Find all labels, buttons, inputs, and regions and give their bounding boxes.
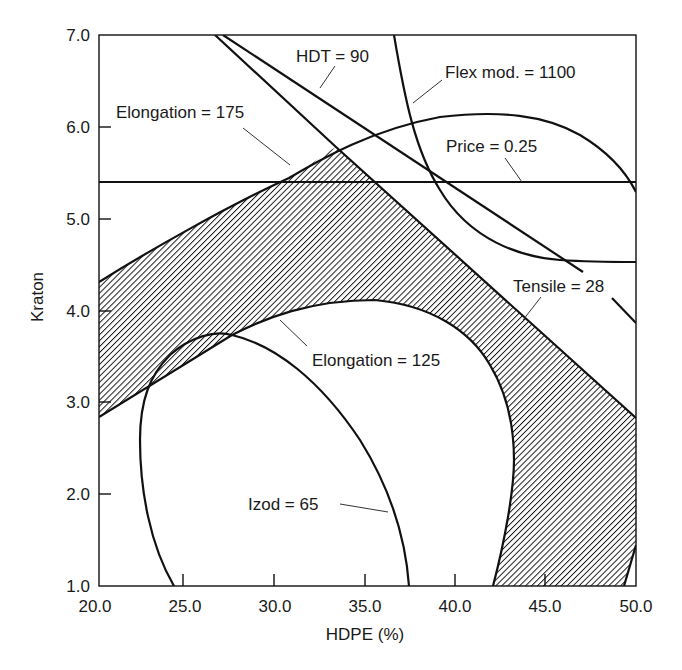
label-flex-mod: Flex mod. = 1100 xyxy=(445,63,576,82)
leader-hdt xyxy=(320,66,335,88)
x-tick-20: 20.0 xyxy=(78,597,111,616)
x-tick-40: 40.0 xyxy=(438,597,471,616)
label-tensile: Tensile = 28 xyxy=(513,277,604,296)
leader-elong125 xyxy=(280,320,307,346)
leader-flex xyxy=(413,80,442,103)
y-tick-2: 2.0 xyxy=(66,485,90,504)
leader-tensile xyxy=(523,297,541,320)
x-tick-25: 25.0 xyxy=(168,597,201,616)
curve-hdt-continued xyxy=(612,298,636,323)
label-elongation-175: Elongation = 175 xyxy=(116,103,244,122)
y-tick-3: 3.0 xyxy=(66,393,90,412)
label-price: Price = 0.25 xyxy=(446,137,537,156)
x-tick-30: 30.0 xyxy=(258,597,291,616)
leader-izod xyxy=(340,504,388,512)
x-axis-title: HDPE (%) xyxy=(326,625,404,644)
x-tick-50: 50.0 xyxy=(619,597,652,616)
y-tick-6: 6.0 xyxy=(66,118,90,137)
x-tick-35: 35.0 xyxy=(348,597,381,616)
leader-price xyxy=(505,158,522,182)
x-tick-45: 45.0 xyxy=(528,597,561,616)
y-tick-4: 4.0 xyxy=(66,302,90,321)
y-axis-title: Kraton xyxy=(28,272,47,322)
label-izod: Izod = 65 xyxy=(248,495,318,514)
leader-elong175 xyxy=(243,128,290,165)
chart-canvas: HDT = 90 Flex mod. = 1100 Elongation = 1… xyxy=(0,0,682,670)
label-hdt: HDT = 90 xyxy=(296,47,369,66)
y-tick-1: 1.0 xyxy=(66,577,90,596)
y-tick-5: 5.0 xyxy=(66,210,90,229)
label-elongation-125: Elongation = 125 xyxy=(312,351,440,370)
y-tick-7: 7.0 xyxy=(66,26,90,45)
curve-izod xyxy=(140,333,409,586)
